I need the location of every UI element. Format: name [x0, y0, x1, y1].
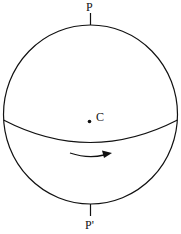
rotation-arrow-head-icon [102, 151, 112, 159]
center-label: C [96, 110, 104, 124]
sphere-diagram: P P' C [0, 0, 181, 234]
rotation-arrow-shaft [70, 153, 104, 157]
center-dot [88, 120, 92, 124]
equator-line [4, 120, 178, 143]
south-pole-label: P' [85, 218, 94, 232]
north-pole-label: P [86, 0, 93, 14]
sphere-outline [4, 25, 178, 204]
